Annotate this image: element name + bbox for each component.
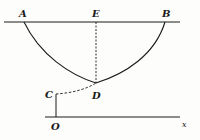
diagram-figure: A E B C D O x — [0, 0, 200, 140]
catenary-diagram: A E B C D O x — [0, 0, 200, 140]
label-o: O — [51, 121, 60, 132]
label-d: D — [91, 90, 101, 101]
curve-adb — [24, 22, 165, 83]
label-a: A — [18, 8, 27, 19]
label-b: B — [161, 8, 170, 19]
label-c: C — [45, 89, 53, 100]
label-e: E — [91, 8, 100, 19]
label-x: x — [182, 120, 187, 129]
dashed-curve-cd — [56, 83, 96, 94]
